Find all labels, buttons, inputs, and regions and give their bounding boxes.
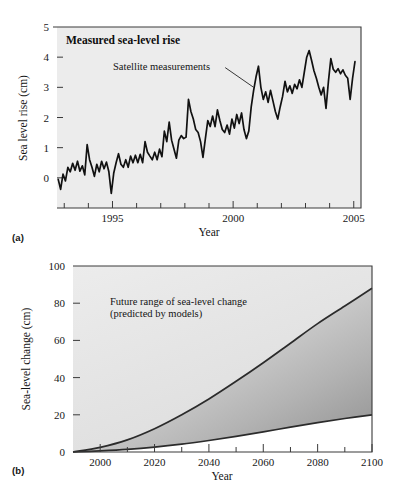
x-tick-label: 2100: [361, 456, 384, 468]
chart-title-a: Measured sea-level rise: [66, 34, 180, 46]
x-tick-label: 2080: [307, 456, 330, 468]
y-tick-label: 100: [49, 260, 66, 272]
x-tick-label: 2060: [252, 456, 275, 468]
x-tick-label: 2005: [343, 212, 366, 224]
x-tick-label: 1995: [101, 212, 124, 224]
x-tick-label: 2000: [222, 212, 245, 224]
sea-level-figure: 199520002005012345 Measured sea-level ri…: [0, 0, 400, 490]
y-tick-label: 60: [54, 334, 66, 346]
y-tick-label: 4: [44, 51, 50, 63]
x-axis-label-a: Year: [198, 226, 219, 238]
annotation-future-range-line1: Future range of sea-level change: [110, 296, 247, 307]
y-tick-label: 3: [44, 81, 50, 93]
x-tick-label: 2020: [144, 456, 167, 468]
figure-container: 199520002005012345 Measured sea-level ri…: [0, 0, 400, 490]
y-tick-label: 0: [60, 446, 66, 458]
y-axis-label-a: Sea level rise (cm): [17, 75, 30, 161]
plot-background-a: [57, 27, 361, 208]
y-tick-label: 1: [44, 142, 50, 154]
panel-label-a: (a): [12, 232, 24, 243]
annotation-future-range-line2: (predicted by models): [110, 308, 203, 320]
y-tick-label: 0: [44, 172, 50, 184]
y-tick-label: 80: [54, 297, 66, 309]
y-axis-label-b: Sea-level change (cm): [20, 307, 33, 410]
x-axis-label-b: Year: [211, 470, 232, 482]
panel-label-b: (b): [12, 465, 25, 476]
chart-panel-b: 200020202040206020802100020406080100 Fut…: [20, 260, 384, 482]
y-tick-label: 20: [54, 409, 66, 421]
chart-panel-a: 199520002005012345 Measured sea-level ri…: [17, 21, 365, 238]
x-tick-label: 2000: [89, 456, 112, 468]
annotation-satellite-measurements: Satellite measurements: [113, 61, 210, 72]
x-tick-label: 2040: [198, 456, 221, 468]
y-tick-label: 40: [54, 372, 66, 384]
y-tick-label: 2: [44, 112, 50, 124]
y-tick-label: 5: [44, 21, 50, 33]
